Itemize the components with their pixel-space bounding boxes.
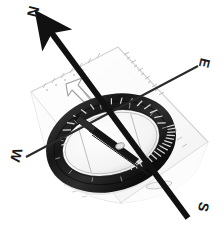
compass-figure: N E W S — [0, 0, 224, 234]
compass-illustration — [0, 0, 224, 234]
